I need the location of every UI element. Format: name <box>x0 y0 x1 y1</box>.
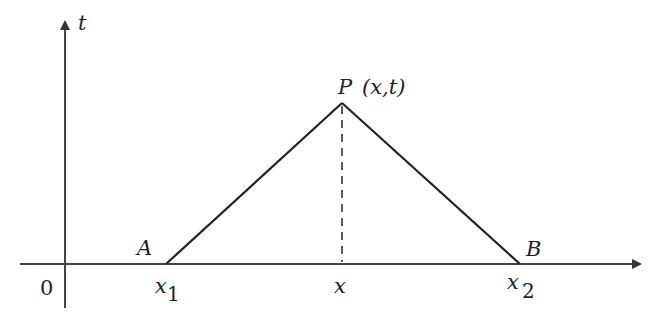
x2-label: x <box>507 270 519 294</box>
side-PB <box>342 103 520 264</box>
t-axis-label: t <box>78 11 87 35</box>
triangle-diagram: t 0 A x 1 P (x,t) x B x 2 <box>0 0 664 319</box>
x2-subscript: 2 <box>522 279 535 303</box>
point-B-label: B <box>525 237 541 261</box>
point-A-label: A <box>135 236 152 260</box>
x-foot-label: x <box>334 274 346 298</box>
origin-label: 0 <box>40 276 53 300</box>
point-P-coords: (x,t) <box>362 75 405 99</box>
x1-subscript: 1 <box>167 282 180 306</box>
x1-label: x <box>155 274 167 298</box>
point-P-label: P <box>337 75 353 99</box>
side-AP <box>166 103 342 264</box>
